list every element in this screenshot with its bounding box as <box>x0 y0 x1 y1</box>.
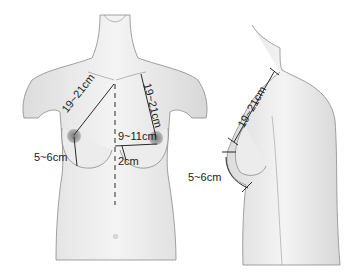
front-label-midline-offset: 2cm <box>118 156 139 167</box>
side-label-nipple-to-fold: 5~6cm <box>188 172 221 183</box>
front-torso <box>23 15 207 260</box>
front-label-midline-to-nipple: 9~11cm <box>118 131 157 142</box>
side-torso <box>227 25 340 265</box>
front-label-nipple-to-fold: 5~6cm <box>34 152 67 163</box>
breast-measurement-figure: 19~21cm 19~21cm 9~11cm 5~6cm 2cm 19~21cm… <box>0 0 354 280</box>
illustration <box>0 0 354 280</box>
